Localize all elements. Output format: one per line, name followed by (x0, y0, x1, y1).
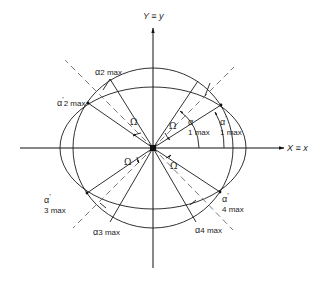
label-alpha-1max-prime: α'1 max (220, 115, 242, 138)
prime: ' (49, 192, 50, 201)
ray-q1-outer (153, 81, 198, 148)
ray-q3-crossing (87, 148, 153, 193)
diagram-canvas: Y ≡ y X ≡ x α2 max α'2 max α1 max α'1 ma… (0, 0, 331, 283)
label-alpha-4max-prime: α'4 max (222, 192, 244, 215)
prime: ' (225, 114, 226, 123)
greek-alpha: α (188, 117, 193, 127)
subscript: 1 max (188, 128, 210, 137)
subscript: 4 max (222, 205, 244, 214)
subscript: 2 max (64, 99, 86, 108)
ray-q1-crossing (153, 105, 221, 148)
subscript: 3 max (98, 228, 120, 237)
y-axis-label: Y ≡ y (143, 12, 164, 21)
crossing-point-q2 (87, 102, 90, 105)
omega-label-q3: Ω (124, 158, 131, 167)
subscript: 2 max (100, 68, 122, 77)
crossing-point-q3 (86, 192, 89, 195)
ray-q4-crossing (153, 148, 220, 192)
label-alpha-2max: α2 max (95, 68, 122, 77)
label-alpha-2max-prime: α'2 max (57, 96, 85, 108)
origin-marker (150, 145, 156, 151)
x-axis-label: X ≡ x (287, 144, 308, 153)
band-q3 (100, 203, 106, 208)
crossing-point-q4 (219, 191, 222, 194)
omega-label-q1: Ω (169, 122, 176, 131)
label-alpha-3max: α3 max (93, 228, 120, 237)
label-alpha-3max-prime: α'3 max (44, 193, 66, 216)
ray-q2-crossing (88, 103, 153, 148)
crossing-point-q1 (220, 104, 223, 107)
prime: ' (227, 191, 228, 200)
subscript: 4 max (200, 226, 222, 235)
band-q1 (205, 83, 210, 96)
subscript: 1 max (220, 128, 242, 137)
omega-label-q4: Ω (170, 162, 177, 171)
ray-q2-outer (110, 79, 153, 148)
label-alpha-4max: α4 max (195, 226, 222, 235)
diagram-svg (0, 0, 331, 283)
omega-label-q2: Ω (130, 118, 137, 127)
subscript: 3 max (44, 206, 66, 215)
label-alpha-1max: α1 max (188, 118, 210, 138)
